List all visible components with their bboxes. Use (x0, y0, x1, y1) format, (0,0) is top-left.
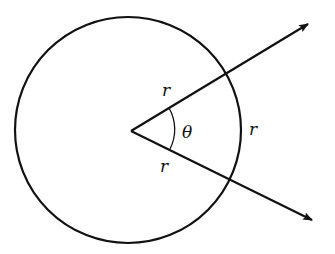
label-arc: r (249, 119, 258, 139)
label-angle-theta: θ (182, 122, 192, 142)
circle (15, 17, 241, 243)
upper-ray-arrow (131, 24, 308, 131)
angle-arc (169, 108, 175, 149)
label-radius-lower: r (160, 156, 169, 176)
label-radius-upper: r (162, 80, 171, 100)
lower-ray-arrow (131, 131, 312, 220)
radian-diagram: r θ r r (0, 0, 335, 254)
